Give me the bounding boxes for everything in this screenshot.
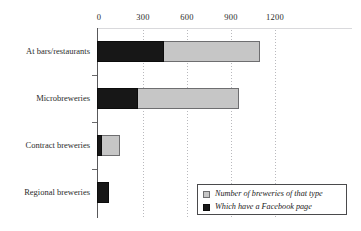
chart-legend: Number of breweries of that type Which h… (197, 184, 347, 215)
legend-item-total: Number of breweries of that type (203, 188, 341, 200)
bar-facebook-regional-breweries (97, 182, 109, 203)
x-axis-line (97, 28, 352, 29)
category-label-at-bars-restaurants: At bars/restaurants (26, 46, 90, 56)
legend-swatch-total-icon (203, 191, 210, 198)
x-axis-tick-label-300: 300 (136, 12, 149, 22)
legend-item-facebook: Which have a Facebook page (203, 201, 341, 213)
x-axis-tick-label-900: 900 (224, 12, 237, 22)
y-axis-tick-3 (92, 169, 97, 170)
bar-facebook-microbreweries (97, 88, 138, 109)
legend-label-total: Number of breweries of that type (215, 189, 323, 199)
y-axis-tick-2 (92, 122, 97, 123)
legend-swatch-facebook-icon (203, 204, 210, 211)
bar-facebook-contract-breweries (97, 135, 102, 156)
y-axis-tick-1 (92, 75, 97, 76)
x-axis-tick-label-600: 600 (180, 12, 193, 22)
category-label-regional-breweries: Regional breweries (24, 187, 90, 197)
x-axis-tick-label-1200: 1200 (266, 12, 284, 22)
x-axis-tick-label-0: 0 (97, 12, 101, 22)
legend-label-facebook: Which have a Facebook page (215, 202, 312, 212)
bar-facebook-at-bars-restaurants (97, 41, 164, 62)
category-label-contract-breweries: Contract breweries (26, 140, 90, 150)
category-label-microbreweries: Microbreweries (36, 93, 90, 103)
brewery-facebook-bar-chart: 0 300 600 900 1200 At bars/restaurants M… (0, 0, 361, 231)
